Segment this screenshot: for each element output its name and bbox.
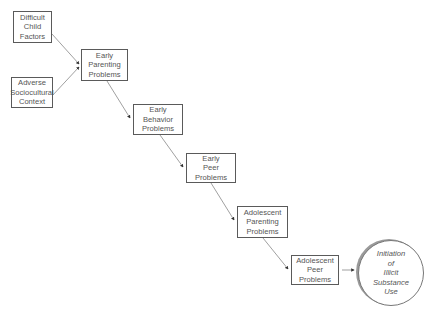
node-text: Early bbox=[96, 51, 113, 61]
node-text: Adolescent bbox=[296, 256, 334, 266]
node-adolescent-parenting-problems: Adolescent Parenting Problems bbox=[237, 206, 288, 238]
node-text: Problems bbox=[195, 173, 227, 183]
node-text: Behavior bbox=[143, 115, 173, 125]
node-text: Sociocultural bbox=[10, 88, 53, 98]
node-text: Peer bbox=[203, 163, 219, 173]
node-early-parenting-problems: Early Parenting Problems bbox=[81, 49, 128, 81]
edge-difficult-to-early-parenting bbox=[52, 34, 79, 64]
outcome-text: of bbox=[388, 259, 394, 269]
node-text: Early bbox=[149, 105, 166, 115]
node-text: Parenting bbox=[88, 60, 121, 70]
outcome-circle: Initiation of Illicit Substance Use bbox=[356, 239, 424, 307]
outcome-text: Illicit bbox=[384, 268, 399, 278]
edge-adverse-to-early-parenting bbox=[52, 67, 79, 96]
node-adverse-sociocultural-context: Adverse Sociocultural Context bbox=[11, 77, 53, 108]
edge-early-parenting-to-early-behavior bbox=[107, 81, 130, 118]
node-early-peer-problems: Early Peer Problems bbox=[186, 153, 236, 183]
edge-early-peer-to-adolescent-parenting bbox=[211, 183, 234, 220]
outcome-label: Initiation of Illicit Substance Use bbox=[358, 240, 424, 306]
node-text: Adverse bbox=[18, 78, 46, 88]
node-text: Parenting bbox=[246, 217, 279, 227]
edge-early-behavior-to-early-peer bbox=[160, 135, 183, 167]
node-text: Adolescent bbox=[244, 208, 282, 218]
outcome-text: Use bbox=[384, 287, 398, 297]
node-text: Early bbox=[202, 154, 219, 164]
node-text: Problems bbox=[299, 275, 331, 285]
node-early-behavior-problems: Early Behavior Problems bbox=[133, 104, 183, 135]
node-text: Problems bbox=[142, 124, 174, 134]
edge-adolescent-parenting-to-adolescent-peer bbox=[263, 238, 288, 269]
outcome-text: Initiation bbox=[377, 249, 405, 259]
node-text: Problems bbox=[246, 227, 278, 237]
node-text: Problems bbox=[88, 70, 120, 80]
node-text: Child bbox=[24, 22, 41, 32]
node-text: Difficult bbox=[20, 13, 45, 23]
node-text: Context bbox=[19, 97, 45, 107]
node-text: Factors bbox=[20, 32, 45, 42]
node-difficult-child-factors: Difficult Child Factors bbox=[13, 11, 52, 43]
outcome-text: Substance bbox=[373, 278, 409, 288]
node-adolescent-peer-problems: Adolescent Peer Problems bbox=[291, 255, 339, 285]
node-text: Peer bbox=[307, 265, 323, 275]
